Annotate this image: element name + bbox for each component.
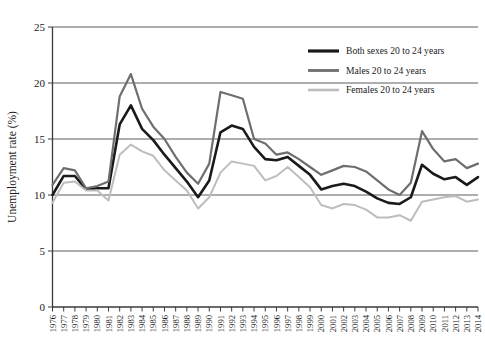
y-tick-label: 15 bbox=[34, 133, 46, 145]
y-tick-label: 20 bbox=[34, 77, 46, 89]
x-tick-label: 1991 bbox=[216, 315, 226, 332]
x-tick-label: 1977 bbox=[59, 314, 69, 332]
x-tick-label: 1992 bbox=[227, 315, 237, 332]
legend-label: Both sexes 20 to 24 years bbox=[346, 45, 445, 56]
chart-container: 0510152025 19761977197819791980198119821… bbox=[0, 0, 485, 358]
unemployment-rate-line-chart: 0510152025 19761977197819791980198119821… bbox=[0, 0, 485, 358]
x-tick-label: 2002 bbox=[339, 315, 349, 332]
x-tick-label: 2004 bbox=[361, 314, 371, 332]
series-line bbox=[53, 145, 479, 221]
x-tick-label: 2008 bbox=[406, 315, 416, 332]
x-tick-label: 1983 bbox=[126, 315, 136, 332]
x-tick-label: 2010 bbox=[428, 315, 438, 332]
x-tick-label: 2012 bbox=[451, 315, 461, 332]
x-tick-label: 1998 bbox=[294, 315, 304, 332]
x-tick-label: 1986 bbox=[160, 314, 170, 332]
y-tick-label: 0 bbox=[40, 301, 46, 313]
x-tick-label: 1993 bbox=[238, 315, 248, 332]
x-tick-label: 2003 bbox=[350, 315, 360, 332]
x-tick-label: 1999 bbox=[305, 315, 315, 332]
x-tick-label: 1997 bbox=[283, 314, 293, 332]
x-tick-label: 1981 bbox=[104, 315, 114, 332]
x-tick-label: 1979 bbox=[81, 315, 91, 332]
x-tick-label: 2007 bbox=[395, 314, 405, 332]
x-tick-label: 2000 bbox=[316, 315, 326, 332]
legend-label: Males 20 to 24 years bbox=[346, 65, 426, 76]
chart-legend: Both sexes 20 to 24 yearsMales 20 to 24 … bbox=[308, 45, 445, 95]
y-tick-label: 25 bbox=[34, 21, 46, 33]
x-tick-label: 1982 bbox=[115, 315, 125, 332]
y-tick-label: 5 bbox=[40, 245, 46, 257]
x-tick-label: 1976 bbox=[48, 314, 58, 332]
x-tick-label: 2014 bbox=[473, 314, 483, 332]
x-tick-label: 1988 bbox=[182, 315, 192, 332]
x-tick-label: 1994 bbox=[249, 314, 259, 332]
x-tick-label: 1996 bbox=[272, 314, 282, 332]
x-tick-label: 1995 bbox=[260, 315, 270, 332]
legend-label: Females 20 to 24 years bbox=[346, 84, 435, 95]
x-axis: 1976197719781979198019811982198319841985… bbox=[48, 307, 484, 332]
x-tick-label: 2006 bbox=[384, 314, 394, 332]
data-series bbox=[53, 74, 479, 221]
x-tick-label: 2009 bbox=[417, 315, 427, 332]
x-tick-label: 1987 bbox=[171, 314, 181, 332]
x-tick-label: 1990 bbox=[204, 315, 214, 332]
x-tick-label: 2005 bbox=[372, 315, 382, 332]
y-tick-label: 10 bbox=[34, 189, 46, 201]
x-tick-label: 1985 bbox=[148, 315, 158, 332]
x-tick-label: 1980 bbox=[92, 315, 102, 332]
x-tick-label: 1978 bbox=[70, 315, 80, 332]
y-axis-title: Unemployment rate (%) bbox=[6, 111, 19, 223]
x-tick-label: 2011 bbox=[440, 315, 450, 332]
x-tick-label: 2013 bbox=[462, 315, 472, 332]
x-tick-label: 1989 bbox=[193, 315, 203, 332]
y-axis: 0510152025 bbox=[34, 21, 53, 313]
x-tick-label: 2001 bbox=[328, 315, 338, 332]
x-tick-label: 1984 bbox=[137, 314, 147, 332]
